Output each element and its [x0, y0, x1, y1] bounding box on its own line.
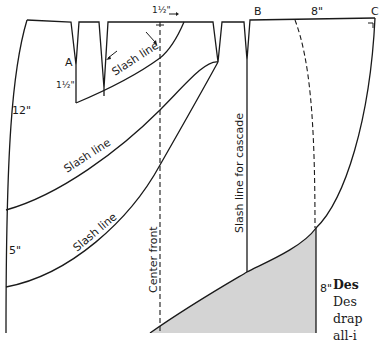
- slash-line-3-curve: [6, 62, 218, 287]
- label-side-5: 5": [9, 244, 21, 257]
- caption-title: Des: [333, 276, 362, 293]
- label-point-a: A: [65, 56, 73, 69]
- label-cascade-slash: Slash line for cascade: [233, 113, 246, 233]
- caption-line: all-i: [333, 327, 362, 344]
- label-top-offset: 1½": [152, 5, 171, 15]
- label-point-b: B: [254, 5, 262, 18]
- cascade-guide-dashed: [295, 20, 315, 228]
- side-seam-right: [316, 18, 375, 228]
- label-slash-line-3: Slash line: [71, 210, 120, 254]
- waistline: [27, 18, 375, 88]
- label-side-12: 12": [12, 104, 31, 117]
- caption-line: drap: [333, 310, 362, 327]
- label-center-front: Center front: [147, 226, 160, 293]
- label-slash-line-1: Slash line: [110, 39, 162, 79]
- slash-line-2-curve: [6, 62, 218, 210]
- label-point-c: C: [371, 5, 379, 18]
- caption-line: Des: [333, 293, 362, 310]
- caption: Des Des drap all-i: [333, 276, 362, 344]
- label-width-8: 8": [311, 5, 323, 18]
- label-dart-depth: 1½": [56, 80, 75, 90]
- label-height-8: 8": [320, 282, 332, 295]
- corner-mark: [368, 23, 373, 28]
